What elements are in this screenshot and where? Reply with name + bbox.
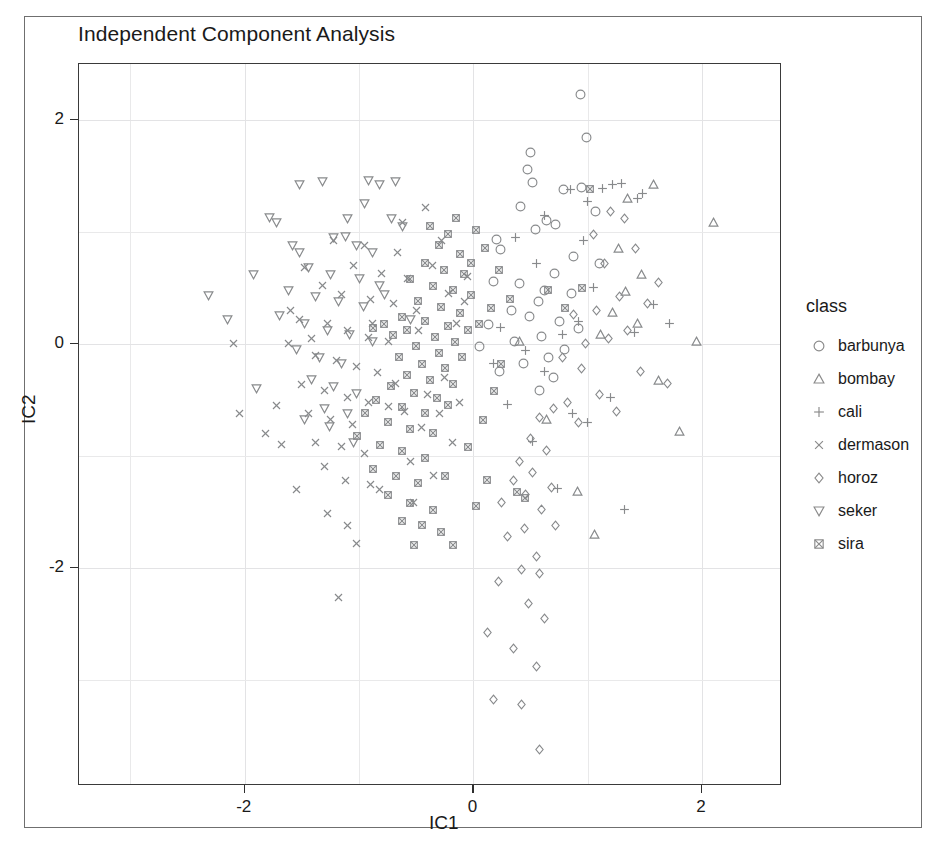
y-axis-label: IC2 (18, 394, 40, 424)
triangle-up-icon (806, 373, 832, 385)
data-point (508, 475, 519, 486)
data-point (251, 383, 262, 394)
data-point (514, 278, 525, 289)
data-point (495, 244, 506, 255)
data-point (518, 358, 529, 369)
data-point (534, 744, 545, 755)
data-point (328, 381, 339, 392)
data-point (440, 471, 450, 481)
data-point (306, 333, 317, 344)
data-point (508, 643, 519, 654)
data-point (352, 431, 362, 441)
data-point (463, 325, 473, 335)
data-point (581, 132, 592, 143)
data-point (691, 336, 702, 347)
legend-item-bombay[interactable]: bombay (806, 362, 926, 395)
data-point (397, 221, 408, 232)
data-point (314, 352, 325, 363)
data-point (336, 441, 347, 452)
legend-item-dermason[interactable]: dermason (806, 428, 926, 461)
data-point (565, 184, 576, 195)
crossed-square-icon (806, 538, 832, 550)
y-tick-mark (70, 119, 78, 120)
data-point (480, 243, 490, 253)
data-point (674, 426, 685, 437)
data-point (299, 318, 310, 329)
data-point (368, 323, 378, 333)
data-point (428, 281, 438, 291)
data-point (516, 699, 527, 710)
data-point (536, 504, 547, 515)
data-point (457, 352, 467, 362)
data-point (510, 232, 521, 243)
data-point (463, 442, 473, 452)
data-point (557, 329, 568, 340)
gridline-y-2 (79, 120, 780, 121)
data-point (285, 305, 296, 316)
gridline-y-0 (79, 344, 780, 345)
data-point (708, 217, 719, 228)
legend-item-horoz[interactable]: horoz (806, 461, 926, 494)
data-point (496, 497, 507, 508)
triangle-down-icon (806, 505, 832, 517)
data-point (222, 314, 233, 325)
data-point (483, 319, 494, 330)
gridline-x-0 (473, 64, 474, 784)
legend: class barbunyabombaycalidermasonhorozsek… (806, 296, 926, 560)
data-point (351, 361, 362, 372)
data-point (605, 392, 616, 403)
data-point (420, 202, 431, 213)
data-point (520, 345, 531, 356)
data-point (591, 305, 602, 316)
data-point (594, 389, 605, 400)
data-point (428, 505, 438, 515)
data-point (351, 240, 362, 251)
data-point (367, 247, 378, 258)
data-point (614, 291, 625, 302)
data-point (534, 385, 545, 396)
legend-item-label: bombay (832, 370, 895, 388)
legend-item-cali[interactable]: cali (806, 395, 926, 428)
legend-item-barbunya[interactable]: barbunya (806, 329, 926, 362)
data-point (383, 490, 393, 500)
diamond-icon (806, 472, 832, 484)
data-point (557, 352, 568, 363)
data-point (360, 408, 370, 418)
data-point (375, 440, 385, 450)
data-point (662, 378, 673, 389)
legend-title: class (806, 296, 926, 317)
gridline-x--2 (245, 64, 246, 784)
data-point (525, 147, 536, 158)
data-point (515, 201, 526, 212)
data-point (560, 303, 570, 313)
data-point (605, 206, 616, 217)
data-point (568, 251, 579, 262)
data-point (448, 540, 458, 550)
data-point (428, 470, 439, 481)
y-tick-mark (70, 343, 78, 344)
data-point (436, 527, 446, 537)
data-point (466, 258, 476, 268)
data-point (203, 290, 214, 301)
data-point (489, 386, 499, 396)
data-point (333, 592, 344, 603)
x-tick-label: 2 (696, 797, 705, 817)
data-point (317, 280, 328, 291)
data-point (486, 303, 496, 313)
y-tick-label: -2 (22, 557, 64, 577)
data-point (324, 421, 335, 432)
data-point (514, 456, 525, 467)
data-point (531, 661, 542, 672)
data-point (294, 179, 305, 190)
data-point (271, 400, 282, 411)
data-point (474, 319, 484, 329)
legend-item-sira[interactable]: sira (806, 527, 926, 560)
data-point (451, 213, 461, 223)
data-point (519, 523, 530, 534)
legend-item-seker[interactable]: seker (806, 494, 926, 527)
data-point (430, 332, 440, 342)
data-point (455, 249, 465, 259)
data-point (283, 285, 294, 296)
data-point (562, 397, 573, 408)
data-point (306, 374, 317, 385)
